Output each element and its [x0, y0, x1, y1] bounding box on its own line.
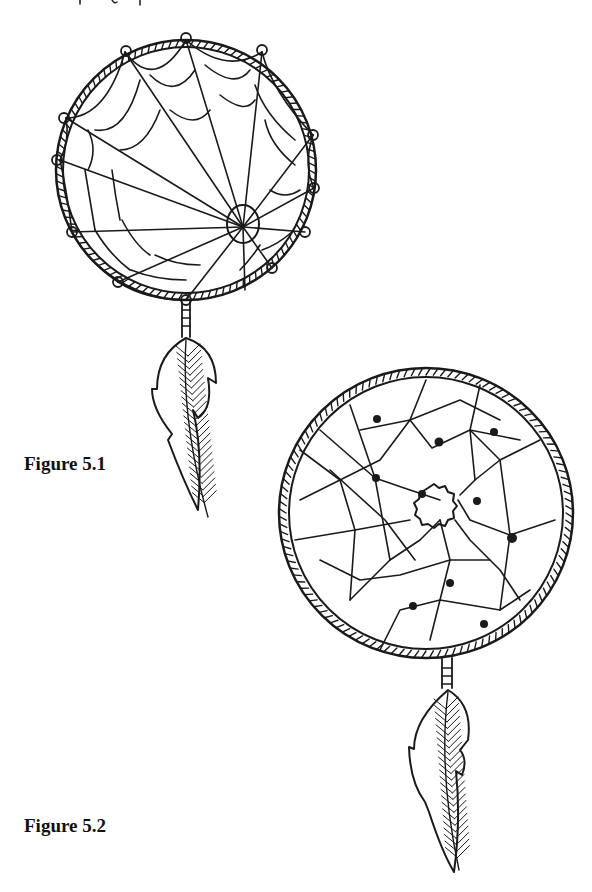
figure-5-2-caption: Figure 5.2 — [24, 815, 106, 837]
page: Figure 5.1 — [0, 0, 592, 892]
dreamcatcher-figure-5-2 — [0, 0, 592, 892]
